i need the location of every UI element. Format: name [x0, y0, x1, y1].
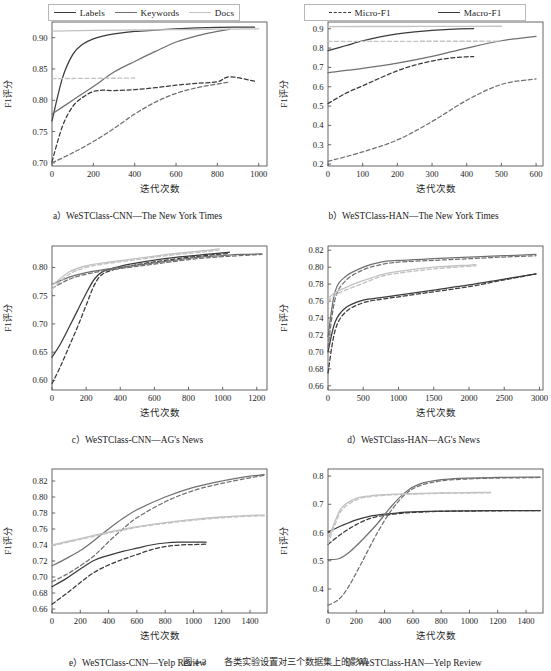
y-tick-label: 0.72 [32, 556, 47, 566]
x-axis-title: 迭代次数 [140, 407, 180, 418]
x-tick-label: 800 [182, 393, 195, 403]
x-tick-label: 800 [435, 616, 448, 626]
x-tick-label: 0 [326, 393, 330, 403]
series-line [52, 475, 264, 581]
x-tick-label: 0 [326, 616, 330, 626]
x-tick-label: 200 [80, 393, 93, 403]
panel-f: 02004006008001000120014000.40.50.60.70.8… [276, 447, 551, 671]
x-tick-label: 400 [128, 169, 141, 179]
plot-b: 01002003004005006000.20.30.40.50.60.70.8… [276, 0, 551, 196]
x-tick-label: 1000 [390, 393, 407, 403]
x-tick-label: 1000 [250, 169, 267, 179]
y-tick-label: 0.2 [313, 159, 324, 169]
x-tick-label: 300 [426, 169, 439, 179]
y-tick-label: 0.74 [32, 540, 48, 550]
chart-e: 02004006008001000120014000.660.680.700.7… [0, 447, 275, 643]
x-tick-label: 400 [102, 616, 115, 626]
plot-frame [52, 469, 267, 613]
y-tick-label: 0.60 [32, 375, 47, 385]
y-axis-title: F1评分 [3, 527, 13, 555]
y-axis-title: F1评分 [279, 304, 289, 332]
series-line [52, 516, 264, 546]
chart-d: 0500100015002000250030000.660.680.700.72… [276, 224, 551, 420]
y-tick-label: 0.65 [32, 347, 47, 357]
subcaption-d: d）WeSTClass-HAN—AG's News [276, 432, 551, 446]
y-tick-label: 0.7 [313, 499, 324, 509]
plot-c: 0200400600800100012000.600.650.700.750.8… [0, 224, 275, 420]
x-axis-title: 迭代次数 [140, 630, 180, 641]
y-axis-title: F1评分 [3, 304, 13, 332]
series-line [52, 254, 262, 284]
y-axis-title: F1评分 [279, 80, 289, 108]
y-tick-label: 0.70 [32, 319, 47, 329]
x-tick-label: 1000 [214, 393, 231, 403]
x-tick-label: 600 [148, 393, 161, 403]
y-tick-label: 0.85 [32, 64, 47, 74]
x-tick-label: 1500 [425, 393, 442, 403]
series-line [52, 27, 255, 121]
y-tick-label: 0.76 [32, 524, 48, 534]
subcaption-c: c）WeSTClass-CNN—AG's News [0, 432, 275, 446]
y-tick-label: 0.70 [308, 347, 323, 357]
y-tick-label: 0.90 [32, 33, 47, 43]
x-tick-label: 1000 [461, 616, 478, 626]
x-tick-label: 1400 [241, 616, 258, 626]
figure-caption: 图 4-3 各类实验设置对三个数据集上的影响 [0, 654, 551, 671]
x-tick-label: 800 [159, 616, 172, 626]
x-tick-label: 500 [357, 393, 370, 403]
chart-c: 0200400600800100012000.600.650.700.750.8… [0, 224, 275, 420]
x-tick-label: 600 [170, 169, 183, 179]
y-tick-label: 0.70 [32, 158, 47, 168]
x-tick-label: 1200 [489, 616, 506, 626]
y-tick-label: 0.82 [308, 245, 323, 255]
x-tick-label: 600 [130, 616, 143, 626]
figure-container: LabelsKeywordsDocs 020040060080010000.70… [0, 0, 551, 671]
x-tick-label: 200 [350, 616, 363, 626]
y-tick-label: 0.4 [313, 584, 324, 594]
series-line [328, 29, 474, 51]
y-tick-label: 0.9 [313, 24, 324, 34]
series-line [328, 511, 540, 545]
x-tick-label: 400 [378, 616, 391, 626]
series-line [328, 492, 491, 539]
y-tick-label: 0.66 [32, 604, 48, 614]
series-line [52, 78, 135, 79]
x-tick-label: 400 [460, 169, 473, 179]
x-tick-label: 400 [114, 393, 127, 403]
y-tick-label: 0.8 [313, 471, 324, 481]
y-tick-label: 0.4 [313, 120, 324, 130]
y-tick-label: 0.7 [313, 62, 324, 72]
x-tick-label: 0 [50, 393, 54, 403]
y-tick-label: 0.82 [32, 476, 47, 486]
series-line [52, 77, 255, 162]
y-tick-label: 0.80 [32, 262, 47, 272]
x-tick-label: 0 [326, 169, 330, 179]
panel-a: LabelsKeywordsDocs 020040060080010000.70… [0, 0, 275, 224]
panel-d: 0500100015002000250030000.660.680.700.72… [276, 224, 551, 448]
y-tick-label: 0.6 [313, 82, 324, 92]
panel-c: 0200400600800100012000.600.650.700.750.8… [0, 224, 275, 448]
chart-b: 01002003004005006000.20.30.40.50.60.70.8… [276, 0, 551, 196]
x-axis-title: 迭代次数 [140, 183, 180, 194]
series-line [52, 475, 264, 566]
x-tick-label: 0 [50, 616, 54, 626]
series-line [52, 542, 206, 586]
series-line [52, 515, 264, 545]
plot-a: 020040060080010000.700.750.800.850.90迭代次… [0, 0, 275, 196]
plot-d: 0500100015002000250030000.660.680.700.72… [276, 224, 551, 420]
y-tick-label: 0.75 [32, 291, 47, 301]
plot-e: 02004006008001000120014000.660.680.700.7… [0, 447, 275, 643]
x-tick-label: 1000 [185, 616, 202, 626]
x-tick-label: 800 [211, 169, 224, 179]
x-tick-label: 0 [50, 169, 54, 179]
series-line [328, 274, 536, 373]
y-tick-label: 0.5 [313, 556, 324, 566]
series-line [328, 79, 536, 162]
plot-f: 02004006008001000120014000.40.50.60.70.8… [276, 447, 551, 643]
x-axis-title: 迭代次数 [416, 407, 456, 418]
y-axis-title: F1评分 [279, 527, 289, 555]
x-tick-label: 600 [530, 169, 543, 179]
plot-frame [328, 22, 543, 166]
y-tick-label: 0.75 [32, 127, 47, 137]
chart-a: 020040060080010000.700.750.800.850.90迭代次… [0, 0, 275, 196]
